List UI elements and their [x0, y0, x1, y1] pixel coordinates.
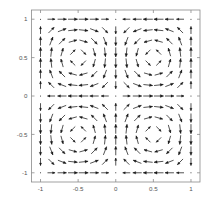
- arrow-field: [39, 18, 192, 174]
- y-tick-label: 0.5: [19, 54, 28, 61]
- vector-field-figure: -1-0.500.51 -1-0.500.51: [0, 0, 211, 205]
- y-tick-label: 0: [24, 92, 28, 99]
- x-tick-label: 0.5: [149, 185, 158, 192]
- field-point: [40, 172, 41, 173]
- field-point: [115, 172, 116, 173]
- field-point: [190, 95, 191, 96]
- field-point: [115, 19, 116, 20]
- field-point: [115, 95, 116, 96]
- x-tick-label: 0: [114, 185, 118, 192]
- x-tick-label: 1: [189, 185, 193, 192]
- field-point: [40, 95, 41, 96]
- y-tick-label: -0.5: [17, 131, 28, 138]
- field-point: [190, 19, 191, 20]
- x-tick-label: -1: [38, 185, 44, 192]
- y-tick-label: 1: [24, 15, 28, 22]
- field-point: [190, 172, 191, 173]
- x-tick-label: -0.5: [73, 185, 84, 192]
- y-tick-label: -1: [22, 169, 28, 176]
- vector-field-plot: -1-0.500.51 -1-0.500.51: [0, 0, 211, 205]
- field-point: [40, 19, 41, 20]
